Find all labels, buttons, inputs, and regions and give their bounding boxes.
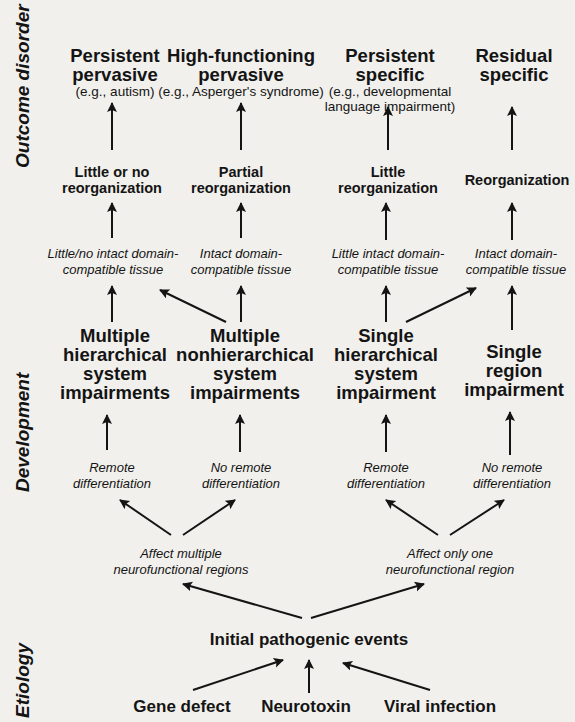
impairment-multiple-nonhierarchical: Multiple nonhierarchical system impairme… [176, 326, 314, 402]
diff-line: differentiation [73, 476, 151, 492]
reorg-line: Little [338, 164, 438, 180]
reorg-little: Little reorganization [338, 164, 438, 196]
outcome-title-line: specific [325, 65, 456, 84]
impairment-line: system [60, 364, 170, 383]
outcome-title-line: specific [475, 65, 552, 84]
impairment-line: hierarchical [60, 345, 170, 364]
impairment-line: system [176, 364, 314, 383]
impairment-line: Single [464, 342, 564, 361]
tissue-intact-1: Intact domain- compatible tissue [191, 246, 291, 278]
diff-line: Remote [73, 460, 151, 476]
impairment-line: system [334, 364, 438, 383]
outcome-title-line: Residual [475, 46, 552, 65]
outcome-example: (e.g., developmental [325, 84, 456, 99]
diff-line: differentiation [202, 476, 280, 492]
diff-line: No remote [202, 460, 280, 476]
tissue-line: Little intact domain- [332, 246, 445, 262]
tissue-intact-2: Intact domain- compatible tissue [466, 246, 566, 278]
impairment-line: impairments [60, 383, 170, 402]
region-line: Affect only one [386, 546, 515, 562]
tissue-line: compatible tissue [191, 262, 291, 278]
impairment-line: impairments [176, 383, 314, 402]
region-line: Affect multiple [113, 546, 248, 562]
tissue-little-no-intact: Little/no intact domain- compatible tiss… [48, 246, 179, 278]
outcome-example: language impairment) [325, 99, 456, 114]
diff-no-remote-1: No remote differentiation [202, 460, 280, 492]
outcome-title-line: High-functioning [158, 46, 323, 65]
diff-no-remote-2: No remote differentiation [473, 460, 551, 492]
tissue-line: Intact domain- [466, 246, 566, 262]
reorg-line: reorganization [191, 180, 291, 196]
region-multiple: Affect multiple neurofunctional regions [113, 546, 248, 578]
cause-neurotoxin: Neurotoxin [261, 699, 351, 715]
outcome-high-functioning-pervasive: High-functioning pervasive (e.g., Asperg… [158, 46, 323, 99]
tissue-line: compatible tissue [466, 262, 566, 278]
tissue-line: compatible tissue [332, 262, 445, 278]
cause-viral-infection: Viral infection [384, 699, 496, 715]
impairment-line: impairment [464, 380, 564, 399]
outcome-example: (e.g., Asperger's syndrome) [158, 84, 323, 99]
diff-line: Remote [347, 460, 425, 476]
reorg-line: Partial [191, 164, 291, 180]
reorg-line: reorganization [62, 180, 162, 196]
outcome-example: (e.g., autism) [70, 84, 159, 99]
impairment-line: Multiple [60, 326, 170, 345]
region-only-one: Affect only one neurofunctional region [386, 546, 515, 578]
impairment-line: hierarchical [334, 345, 438, 364]
diff-line: differentiation [347, 476, 425, 492]
tissue-line: compatible tissue [48, 262, 179, 278]
tissue-line: Intact domain- [191, 246, 291, 262]
reorg-line: Reorganization [465, 172, 570, 188]
reorg-partial: Partial reorganization [191, 164, 291, 196]
cause-gene-defect: Gene defect [133, 699, 230, 715]
outcome-residual-specific: Residual specific [475, 46, 552, 84]
outcome-title-line: Persistent [325, 46, 456, 65]
tissue-line: Little/no intact domain- [48, 246, 179, 262]
outcome-title-line: pervasive [158, 65, 323, 84]
impairment-line: Single [334, 326, 438, 345]
outcome-title-line: Persistent [70, 46, 159, 65]
impairment-line: region [464, 361, 564, 380]
reorg-little-or-no: Little or no reorganization [62, 164, 162, 196]
tissue-little-intact: Little intact domain- compatible tissue [332, 246, 445, 278]
diff-line: No remote [473, 460, 551, 476]
diff-line: differentiation [473, 476, 551, 492]
impairment-single-hierarchical: Single hierarchical system impairment [334, 326, 438, 402]
initial-pathogenic-events: Initial pathogenic events [210, 632, 408, 648]
region-line: neurofunctional regions [113, 562, 248, 578]
impairment-line: impairment [334, 383, 438, 402]
reorg-line: Little or no [62, 164, 162, 180]
outcome-persistent-pervasive: Persistent pervasive (e.g., autism) [70, 46, 159, 99]
impairment-multiple-hierarchical: Multiple hierarchical system impairments [60, 326, 170, 402]
impairment-line: nonhierarchical [176, 345, 314, 364]
impairment-single-region: Single region impairment [464, 342, 564, 399]
outcome-persistent-specific: Persistent specific (e.g., developmental… [325, 46, 456, 114]
region-line: neurofunctional region [386, 562, 515, 578]
outcome-title-line: pervasive [70, 65, 159, 84]
diff-remote-1: Remote differentiation [73, 460, 151, 492]
reorg-line: reorganization [338, 180, 438, 196]
reorg-full: Reorganization [465, 172, 570, 188]
impairment-line: Multiple [176, 326, 314, 345]
diff-remote-2: Remote differentiation [347, 460, 425, 492]
